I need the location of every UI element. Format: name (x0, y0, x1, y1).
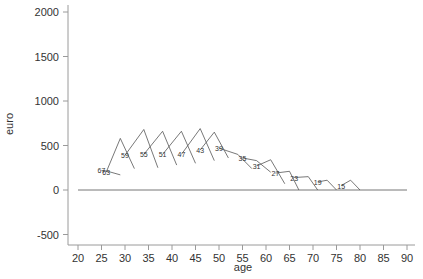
series-label-39: 39 (215, 145, 223, 152)
y-axis-label: euro (3, 113, 15, 135)
x-tick-label: 20 (72, 252, 84, 264)
line-chart: -5000500100015002000 2025303540455055606… (0, 0, 423, 279)
x-tick-label: 40 (166, 252, 178, 264)
x-tick-label: 75 (330, 252, 342, 264)
y-tick-label: -500 (37, 229, 59, 241)
x-tick-label: 60 (260, 252, 272, 264)
series-label-43: 43 (196, 147, 204, 154)
x-tick-label: 65 (283, 252, 295, 264)
series-label-35: 35 (239, 155, 247, 162)
series-line-47 (181, 129, 214, 161)
x-tick-label: 25 (95, 252, 107, 264)
x-tick-label: 70 (307, 252, 319, 264)
x-tick-label: 85 (377, 252, 389, 264)
series-label-19: 19 (314, 179, 322, 186)
series-line-55 (144, 131, 177, 165)
series-line-51 (163, 131, 196, 163)
x-axis-label: age (234, 261, 252, 273)
series-label-31: 31 (253, 163, 261, 170)
series-label-27: 27 (272, 170, 280, 177)
y-tick-label: 0 (53, 184, 59, 196)
y-ticks: -5000500100015002000 (35, 6, 68, 241)
plot-area: 6763595551474339353127231915 (78, 129, 407, 190)
series-label-51: 51 (159, 151, 167, 158)
y-tick-label: 1500 (35, 51, 59, 63)
series-label-15: 15 (337, 183, 345, 190)
series-label-63: 63 (102, 169, 110, 176)
x-tick-label: 35 (142, 252, 154, 264)
series-label-55: 55 (140, 151, 148, 158)
series-line-59 (125, 129, 158, 167)
x-tick-label: 80 (354, 252, 366, 264)
x-tick-label: 90 (401, 252, 413, 264)
series-label-59: 59 (121, 152, 129, 159)
y-tick-label: 2000 (35, 6, 59, 18)
x-tick-label: 30 (119, 252, 131, 264)
y-tick-label: 1000 (35, 95, 59, 107)
y-tick-label: 500 (41, 140, 59, 152)
x-tick-label: 50 (213, 252, 225, 264)
x-tick-label: 45 (189, 252, 201, 264)
axes (68, 5, 415, 245)
series-label-47: 47 (178, 151, 186, 158)
series-label-23: 23 (290, 175, 298, 182)
